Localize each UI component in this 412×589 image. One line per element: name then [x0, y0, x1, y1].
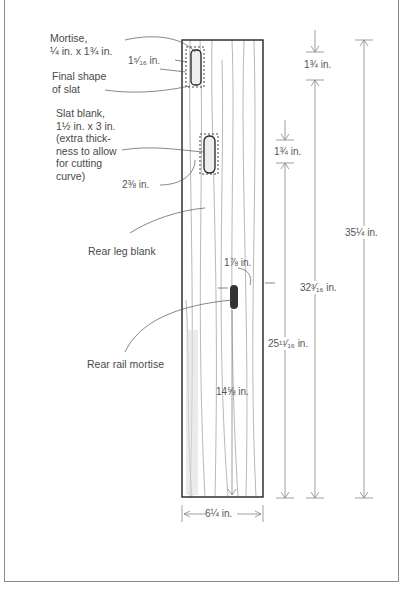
label-slat-blank-line6: curve)	[56, 170, 117, 183]
dim-rail-mortise-height: 14⅝ in.	[216, 385, 249, 398]
dim-slat-offset: 2⅜ in.	[122, 178, 149, 191]
label-final-shape: Final shape of slat	[52, 70, 106, 95]
rear-rail-mortise	[230, 285, 238, 309]
label-slat-blank-line1: Slat blank,	[56, 107, 117, 120]
label-slat-blank-line4: ness to allow	[56, 145, 117, 158]
label-mortise-line2: ¼ in. x 1¾ in.	[50, 45, 112, 58]
dim-second-gap: 1¾ in.	[274, 145, 301, 158]
dim-to-second-mortise: 25¹¹⁄₁₆ in.	[268, 337, 308, 350]
label-final-shape-line1: Final shape	[52, 70, 106, 83]
dim-top-to-first-mortise: 1¾ in.	[304, 58, 331, 71]
label-mortise: Mortise, ¼ in. x 1¾ in.	[50, 32, 112, 57]
grain-shadow	[186, 330, 198, 495]
dim-top-mortise-offset: 1⁵⁄₁₆ in.	[128, 54, 160, 67]
label-slat-blank-line2: 1½ in. x 3 in.	[56, 120, 117, 133]
dim-to-first-mortise: 32³⁄₁₆ in.	[300, 281, 337, 294]
top-mortise	[191, 50, 201, 85]
label-final-shape-line2: of slat	[52, 83, 106, 96]
dim-width: 6¼ in.	[205, 507, 232, 520]
label-slat-blank-line3: (extra thick-	[56, 132, 117, 145]
label-rear-leg-blank: Rear leg blank	[88, 245, 156, 258]
label-rear-rail-mortise: Rear rail mortise	[87, 358, 164, 371]
second-mortise	[204, 136, 215, 173]
label-slat-blank: Slat blank, 1½ in. x 3 in. (extra thick-…	[56, 107, 117, 182]
dim-overall-length: 35¼ in.	[345, 226, 378, 239]
label-mortise-line1: Mortise,	[50, 32, 112, 45]
label-slat-blank-line5: for cutting	[56, 157, 117, 170]
dim-rail-mortise-offset: 1⅞ in.	[224, 256, 251, 269]
